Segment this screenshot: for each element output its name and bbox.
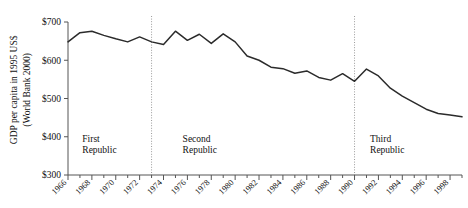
y-tick-label: $600 xyxy=(42,56,61,66)
x-tick-label: 1978 xyxy=(193,177,212,196)
annotation-label-line-1: First xyxy=(82,134,100,144)
x-tick-label: 1970 xyxy=(97,177,116,196)
x-tick-label: 1988 xyxy=(312,177,331,196)
x-tick-label: 1982 xyxy=(240,177,259,196)
x-tick-label: 1992 xyxy=(360,177,379,196)
y-tick-label: $400 xyxy=(42,132,61,142)
data-line-gdp-per-capita xyxy=(68,31,462,117)
annotation-label-line-1: Third xyxy=(370,134,391,144)
x-tick-label: 1990 xyxy=(336,177,355,196)
x-tick-label: 1972 xyxy=(121,177,140,196)
x-tick-label: 1984 xyxy=(264,177,284,197)
x-tick-label: 1996 xyxy=(408,177,427,196)
y-tick-label: $700 xyxy=(42,17,61,27)
x-tick-label: 1976 xyxy=(169,177,188,196)
gdp-per-capita-chart: GDP per capita in 1995 US$ (World Bank 2… xyxy=(0,0,468,208)
x-tick-label: 1974 xyxy=(145,177,165,197)
annotation-label-line-2: Republic xyxy=(370,145,404,155)
annotation-label-line-1: Second xyxy=(183,134,211,144)
y-tick-label: $500 xyxy=(42,94,61,104)
x-tick-label: 1994 xyxy=(384,177,404,197)
x-tick-label: 1968 xyxy=(73,177,92,196)
annotation-label-line-2: Republic xyxy=(183,145,217,155)
x-tick-label: 1998 xyxy=(431,177,450,196)
x-tick-label: 1980 xyxy=(216,177,235,196)
y-tick-label: $300 xyxy=(42,170,61,180)
chart-canvas: $300$400$500$600$70019661968197019721974… xyxy=(0,0,468,208)
x-tick-label: 1986 xyxy=(288,177,307,196)
annotation-label-line-2: Republic xyxy=(82,145,116,155)
